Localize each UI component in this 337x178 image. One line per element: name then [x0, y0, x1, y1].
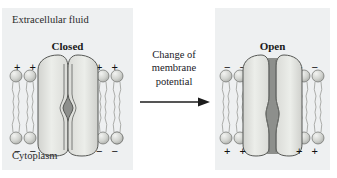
phospholipid-bilayer-right — [97, 70, 123, 144]
label-cytoplasm: Cytoplasm — [12, 150, 58, 161]
ion-channel-protein-open — [243, 55, 302, 156]
transition-line-3: potential — [138, 75, 210, 88]
transition-line-1: Change of — [138, 48, 210, 61]
charges-bottom-left-open: + + — [224, 146, 249, 157]
phospholipid-bilayer-left — [10, 70, 36, 144]
ion-channel-protein-closed — [38, 55, 98, 156]
transition-arrow — [140, 96, 210, 108]
panel-closed-channel: Extracellular fluid Closed + + + + — [2, 8, 133, 170]
panel-open-channel: Open − − − − — [215, 8, 330, 170]
charges-bottom-right-closed: − − — [96, 146, 121, 157]
figure-canvas: Extracellular fluid Closed + + + + — [0, 0, 337, 178]
phospholipid-bilayer-left — [220, 70, 246, 144]
charges-bottom-right-open: + + — [296, 146, 321, 157]
transition-line-2: membrane — [138, 61, 210, 74]
transition-caption: Change of membrane potential — [138, 48, 210, 88]
